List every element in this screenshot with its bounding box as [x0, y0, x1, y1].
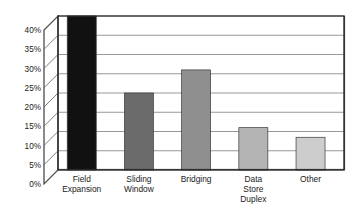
bar-bridging	[182, 70, 211, 170]
bar-chart: 0%5%10%15%20%25%30%35%40% FieldExpansion…	[0, 0, 353, 211]
bar-rect	[239, 128, 268, 170]
y-axis-tick-label: 40%	[25, 26, 41, 35]
y-axis-tick-label: 15%	[25, 122, 41, 131]
x-axis-category-label: Sliding	[126, 174, 151, 184]
y-axis-tick-label: 10%	[25, 142, 41, 151]
x-axis-category-label: Data	[244, 174, 262, 184]
bar-rect	[296, 137, 325, 170]
x-axis-labels: FieldExpansionSlidingWindowBridgingDataS…	[62, 174, 321, 204]
bar-rect	[124, 93, 153, 170]
x-axis-category-label: Expansion	[62, 184, 101, 194]
x-axis-category-label: Field	[73, 174, 91, 184]
x-axis-category-label: Store	[243, 184, 263, 194]
y-axis-tick-label: 35%	[25, 45, 41, 54]
y-axis-labels: 0%5%10%15%20%25%30%35%40%	[25, 26, 41, 189]
bar-sliding-window	[124, 93, 153, 170]
bar-data-store-duplex	[239, 128, 268, 170]
y-axis-tick-label: 20%	[25, 103, 41, 112]
chart-canvas: 0%5%10%15%20%25%30%35%40% FieldExpansion…	[0, 0, 353, 211]
x-axis-category-label: Other	[300, 174, 321, 184]
bar-other	[296, 137, 325, 170]
x-axis-category-label: Bridging	[181, 174, 212, 184]
x-axis-category-label: Duplex	[240, 194, 267, 204]
bar-field-expansion	[67, 16, 96, 170]
y-axis-tick-label: 0%	[29, 180, 41, 189]
y-axis-tick-label: 5%	[29, 161, 41, 170]
y-axis-tick-label: 30%	[25, 65, 41, 74]
bar-rect	[182, 70, 211, 170]
bar-rect	[67, 16, 96, 170]
x-axis-category-label: Window	[124, 184, 155, 194]
y-axis-tick-label: 25%	[25, 84, 41, 93]
